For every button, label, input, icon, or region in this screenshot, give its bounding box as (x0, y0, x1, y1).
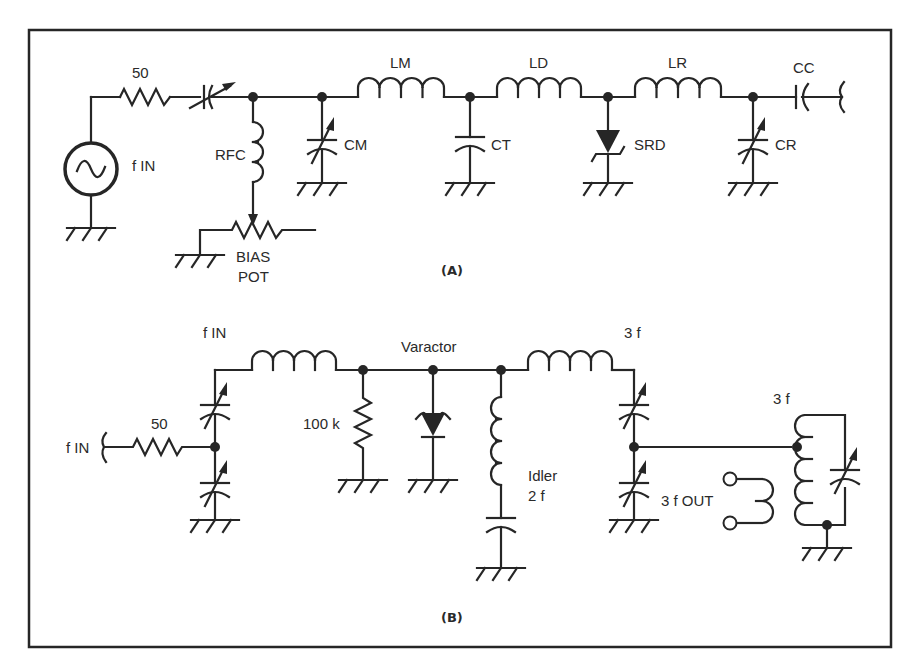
pot-label: POT (238, 268, 269, 285)
resistor-50-label: 50 (132, 64, 149, 81)
ct-label: CT (491, 136, 511, 153)
resistor-50-label: 50 (151, 415, 168, 432)
junction-dot (792, 442, 802, 452)
srd-label: SRD (634, 136, 666, 153)
source-label: f IN (132, 157, 155, 174)
inductor-icon (635, 78, 796, 97)
resistor-100k-label: 100 k (303, 415, 340, 432)
output-coil-icon (724, 473, 774, 530)
cm-label: CM (344, 136, 367, 153)
junction-dot (822, 520, 832, 530)
inductor-icon (358, 78, 497, 97)
varactor-label: Varactor (401, 338, 457, 355)
capacitor-icon (796, 82, 844, 112)
panel-b: f IN 50 f IN Varacto (66, 324, 859, 625)
capacitor-icon (446, 97, 494, 195)
resistor-icon (120, 89, 200, 105)
idler-label: Idler (528, 467, 557, 484)
variable-capacitor-icon (190, 82, 253, 108)
fin-node-label: f IN (203, 324, 226, 341)
output-label: 3 f OUT (661, 492, 714, 509)
resistor-icon (339, 370, 387, 492)
capacitor-icon (477, 518, 525, 580)
panel-a-caption: (A) (441, 263, 463, 278)
variable-capacitor-icon (298, 97, 346, 195)
idler-freq-label: 2 f (528, 487, 546, 504)
inductor-icon (528, 351, 634, 370)
ld-label: LD (529, 54, 548, 71)
resistor-icon (104, 439, 215, 455)
inductor-icon (497, 78, 635, 97)
inductor-icon (215, 351, 528, 370)
cc-label: CC (793, 59, 815, 76)
varactor-diode-icon (409, 370, 457, 492)
lr-label: LR (668, 54, 687, 71)
variable-capacitor-icon (729, 97, 777, 195)
input-label: f IN (66, 439, 89, 456)
inductor-icon (491, 370, 501, 518)
lm-label: LM (390, 54, 411, 71)
rfc-label: RFC (215, 146, 246, 163)
output-filter-label: 3 f (624, 324, 642, 341)
panel-a: f IN 50 RFC (65, 54, 844, 285)
schematic-diagram: f IN 50 RFC (0, 0, 903, 663)
cr-label: CR (775, 136, 797, 153)
panel-b-caption: (B) (441, 610, 463, 625)
bias-label: BIAS (236, 248, 270, 265)
tapped-inductor-icon (795, 415, 851, 560)
inductor-icon (248, 97, 263, 226)
ac-source-icon (65, 97, 120, 240)
tank-label: 3 f (773, 390, 791, 407)
step-recovery-diode-icon (584, 97, 632, 195)
